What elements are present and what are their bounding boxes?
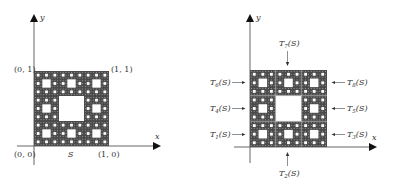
arrow-left-icon: [332, 133, 336, 136]
svg-text:T5(S): T5(S): [347, 104, 368, 114]
label-t1: T1(S): [210, 130, 246, 140]
arrow-left-icon: [332, 107, 336, 110]
svg-text:T7(S): T7(S): [279, 39, 300, 49]
corner-label-bottom-right: (1, 0): [98, 150, 120, 159]
y-axis-arrow-icon: [30, 14, 38, 22]
arrow-down-icon: [286, 62, 289, 66]
corner-label-bottom-left: (0, 0): [14, 150, 36, 159]
arrow-up-icon: [286, 152, 289, 156]
y-axis-label: y: [39, 13, 45, 22]
y-axis-label: y: [255, 13, 261, 22]
arrow-right-icon: [242, 133, 246, 136]
sierpinski-carpet-right: [250, 70, 327, 147]
x-axis-arrow-icon: [153, 142, 161, 150]
label-t6: T6(S): [210, 78, 246, 88]
svg-text:T8(S): T8(S): [347, 78, 368, 88]
svg-text:T4(S): T4(S): [210, 104, 231, 114]
sierpinski-carpet-left: [34, 71, 109, 146]
right-figure: y x T7(S) T2(S) T6(S) T4(S) T1(S): [210, 13, 377, 179]
label-t7: T7(S): [279, 39, 300, 66]
set-label-s: S: [68, 150, 74, 159]
left-figure: y x (0, 1) (1, 1) (0, 0) (1, 0) S: [14, 13, 161, 165]
svg-text:T1(S): T1(S): [210, 130, 231, 140]
label-t8: T8(S): [332, 78, 368, 88]
arrow-right-icon: [242, 81, 246, 84]
x-axis-label: x: [155, 132, 160, 141]
label-t3: T3(S): [332, 130, 368, 140]
label-t5: T5(S): [332, 104, 368, 114]
arrow-right-icon: [242, 107, 246, 110]
corner-label-top-left: (0, 1): [14, 65, 36, 74]
x-axis-label: x: [372, 133, 377, 142]
y-axis-arrow-icon: [246, 14, 254, 22]
label-t4: T4(S): [210, 104, 246, 114]
svg-text:T2(S): T2(S): [279, 169, 300, 179]
corner-label-top-right: (1, 1): [111, 65, 133, 74]
label-t2: T2(S): [279, 152, 300, 179]
svg-text:T6(S): T6(S): [210, 78, 231, 88]
x-axis-arrow-icon: [369, 143, 377, 151]
arrow-left-icon: [332, 81, 336, 84]
figure-canvas: y x (0, 1) (1, 1) (0, 0) (1, 0) S y x T7…: [0, 0, 397, 186]
svg-text:T3(S): T3(S): [347, 130, 368, 140]
